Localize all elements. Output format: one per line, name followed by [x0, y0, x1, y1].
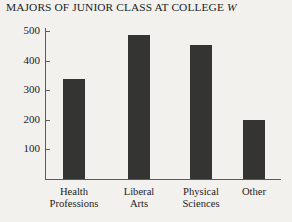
y-tick-500: 500 — [0, 31, 50, 32]
bar-other — [243, 120, 265, 179]
y-tick-100: 100 — [0, 149, 50, 150]
y-tick-200: 200 — [0, 120, 50, 121]
y-tick-mark — [45, 61, 50, 62]
x-axis-label-line1: Health — [60, 186, 88, 197]
x-axis-label-line1: Liberal — [124, 186, 155, 197]
bar-health-professions — [63, 79, 85, 179]
y-tick-label: 300 — [4, 84, 40, 95]
x-axis-label-line2: Sciences — [163, 198, 239, 210]
y-tick-mark — [45, 90, 50, 91]
y-tick-label: 400 — [4, 55, 40, 66]
y-tick-mark — [45, 149, 50, 150]
x-axis-line — [45, 179, 281, 180]
y-tick-label: 200 — [4, 114, 40, 125]
y-tick-label: 500 — [4, 25, 40, 36]
y-tick-mark — [45, 31, 50, 32]
x-axis-label-line1: Physical — [183, 186, 219, 197]
y-tick-400: 400 — [0, 61, 50, 62]
y-axis-line — [45, 28, 46, 180]
y-tick-mark — [45, 120, 50, 121]
y-tick-label: 100 — [4, 143, 40, 154]
bar-liberal-arts — [128, 35, 150, 179]
bar-physical-sciences — [190, 45, 212, 179]
plot-area: 100 200 300 400 500 Health Professions L… — [0, 0, 292, 222]
bar-chart-figure: MAJORS OF JUNIOR CLASS AT COLLEGE W 100 … — [0, 0, 292, 222]
y-tick-300: 300 — [0, 90, 50, 91]
x-axis-label-line1: Other — [242, 186, 266, 197]
x-axis-label-other: Other — [216, 186, 292, 198]
